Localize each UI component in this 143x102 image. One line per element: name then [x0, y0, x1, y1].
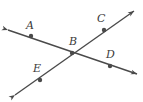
point-dot-c — [102, 28, 106, 32]
point-label-e: E — [33, 63, 41, 74]
point-dot-d — [108, 64, 112, 68]
point-label-b: B — [69, 36, 77, 47]
point-dot-e — [38, 78, 42, 82]
point-label-c: C — [97, 13, 105, 24]
geometry-figure: A B C D E — [0, 0, 143, 102]
point-dot-b — [70, 51, 74, 55]
point-label-a: A — [26, 20, 34, 31]
geometry-canvas — [0, 0, 143, 102]
point-dot-a — [29, 34, 33, 38]
point-label-d: D — [106, 49, 115, 60]
